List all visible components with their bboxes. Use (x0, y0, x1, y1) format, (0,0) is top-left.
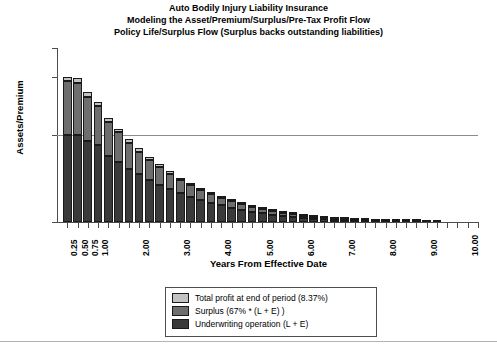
x-tick-mark (129, 223, 130, 228)
x-tick-mark (160, 223, 161, 228)
bar-stack (412, 48, 421, 222)
bar-segment-underwriting (186, 197, 195, 222)
x-tick-mark (119, 223, 120, 228)
bar-segment-profit (125, 139, 134, 142)
x-tick-label-0.75: 0.75 (91, 239, 100, 256)
bar-stack (237, 48, 246, 222)
bar-segment-surplus (155, 167, 164, 184)
bar-segment-surplus (63, 81, 72, 135)
x-tick-mark (355, 223, 356, 228)
bar-segment-surplus (145, 160, 154, 180)
bar-segment-profit (94, 102, 103, 106)
bar-segment-underwriting (104, 156, 113, 222)
bar-segment-surplus (217, 198, 226, 206)
bar-segment-underwriting (145, 180, 154, 222)
bar-segment-profit (114, 129, 123, 133)
x-axis-title: Years From Effective Date (0, 258, 497, 269)
bar-segment-underwriting (309, 219, 318, 222)
x-tick-mark (211, 223, 212, 228)
bar-segment-surplus (227, 201, 236, 208)
bar-segment-underwriting (125, 169, 134, 222)
chart-legend: Total profit at end of period (8.37%)Sur… (165, 287, 377, 337)
bar-stack (350, 48, 359, 222)
bar-segment-profit (135, 148, 144, 151)
bar-segment-underwriting (196, 200, 205, 222)
x-tick-label-5.00: 5.00 (266, 239, 275, 256)
bar-segment-underwriting (268, 215, 277, 222)
bar-segment-profit (309, 215, 318, 217)
bar-segment-profit (361, 218, 370, 220)
x-tick-mark (242, 223, 243, 228)
x-tick-mark (437, 223, 438, 228)
bar-segment-profit (104, 118, 113, 122)
bar-segment-profit (371, 219, 380, 221)
bar-segment-underwriting (258, 213, 267, 222)
bar-segment-profit (299, 214, 308, 216)
legend-label-1: Surplus (67% * (L + E) ) (195, 306, 285, 316)
x-tick-mark (427, 223, 428, 228)
bar-stack (392, 48, 401, 222)
bar-stack (381, 48, 390, 222)
x-tick-label-4.00: 4.00 (224, 239, 233, 256)
x-tick-mark (303, 223, 304, 228)
bar-segment-profit (268, 209, 277, 211)
x-tick-label-3.00: 3.00 (183, 239, 192, 256)
bar-segment-underwriting (320, 219, 329, 222)
x-tick-mark (396, 223, 397, 228)
bar-segment-surplus (268, 211, 277, 214)
bar-segment-profit (83, 92, 92, 96)
x-tick-mark (190, 223, 191, 228)
bar-segment-profit (73, 78, 82, 82)
bar-segment-surplus (166, 174, 175, 189)
x-tick-mark (345, 223, 346, 228)
x-tick-mark (149, 223, 150, 228)
bar-segment-profit (63, 77, 72, 81)
bar-segment-surplus (248, 207, 257, 212)
x-tick-mark (468, 223, 469, 228)
x-tick-mark (273, 223, 274, 228)
bar-segment-profit (227, 199, 236, 201)
bar-segment-profit (330, 217, 339, 219)
bar-segment-underwriting (83, 141, 92, 222)
bar-segment-profit (340, 217, 349, 219)
bar-stack (361, 48, 370, 222)
bar-segment-surplus (83, 97, 92, 141)
bar-stack (433, 48, 442, 222)
y-axis-title: Assets/Premium (14, 63, 25, 173)
bar-stack (135, 48, 144, 222)
bar-segment-underwriting (340, 220, 349, 222)
bar-stack (248, 48, 257, 222)
bar-segment-underwriting (73, 135, 82, 222)
x-tick-mark (67, 223, 68, 228)
bar-stack (309, 48, 318, 222)
x-tick-label-6.00: 6.00 (307, 239, 316, 256)
bar-segment-surplus (279, 213, 288, 216)
bar-segment-profit (196, 188, 205, 190)
x-tick-mark (180, 223, 181, 228)
bar-stack (176, 48, 185, 222)
bar-stack (145, 48, 154, 222)
bar-segment-underwriting (279, 216, 288, 222)
x-tick-mark (375, 223, 376, 228)
legend-row: Underwriting operation (L + E) (172, 318, 370, 330)
bar-segment-underwriting (207, 203, 216, 222)
bar-segment-underwriting (248, 212, 257, 222)
y-axis-ticks: 2.001.671.000.00 (0, 0, 52, 350)
bar-segment-surplus (94, 106, 103, 145)
bar-segment-surplus (237, 204, 246, 210)
page-bottom-rule (0, 341, 497, 342)
x-tick-mark (293, 223, 294, 228)
bar-segment-surplus (299, 216, 308, 218)
x-tick-mark (139, 223, 140, 228)
bar-segment-underwriting (135, 174, 144, 222)
bar-segment-profit (392, 219, 401, 221)
bar-segment-surplus (114, 132, 123, 162)
bar-segment-profit (433, 220, 442, 222)
bar-segment-underwriting (176, 193, 185, 222)
bar-segment-profit (422, 220, 431, 222)
x-tick-mark (221, 223, 222, 228)
bar-stack (166, 48, 175, 222)
bar-segment-underwriting (299, 218, 308, 222)
bar-segment-profit (248, 205, 257, 207)
bar-segment-underwriting (237, 210, 246, 222)
